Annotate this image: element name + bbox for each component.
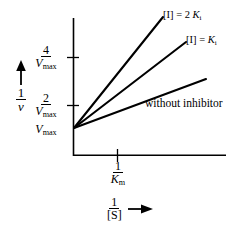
x-tick-label-1-km: 1 Km <box>100 160 136 187</box>
y-tick-label-4-vmax: 4 Vmax <box>24 44 68 71</box>
y-tick-label-2-vmax-subscript: max <box>43 110 57 119</box>
curve-inhibitor-ki <box>74 42 186 128</box>
y-tick-label-2-vmax: 2 Vmax <box>24 92 68 119</box>
curve-label-2ki-coefficient: 2 <box>185 9 190 20</box>
lineweaver-burk-figure: 1 v 4 Vmax 2 Vmax Vmax 1 Km 1 [S] <box>0 0 249 233</box>
x-axis-title: 1 [S] <box>105 196 154 221</box>
y-tick-label-4-vmax-fraction: 4 Vmax <box>33 44 58 71</box>
y-tick-label-2-vmax-fraction: 2 Vmax <box>33 92 58 119</box>
curve-label-ki-bracket: [I] <box>186 34 197 45</box>
x-axis-title-denominator: [S] <box>105 209 124 221</box>
curve-label-2ki-subscript: i <box>200 14 202 22</box>
curve-label-ki-equals: = <box>199 34 205 45</box>
curve-label-2ki-constant: K <box>193 9 200 20</box>
x-tick-label-1-km-subscript: m <box>119 178 125 187</box>
y-tick-label-4-vmax-denominator: Vmax <box>33 57 58 71</box>
x-axis-title-numerator: 1 <box>109 196 119 209</box>
y-tick-label-4-vmax-numerator: 4 <box>41 44 51 57</box>
y-tick-label-4-vmax-subscript: max <box>43 62 57 71</box>
curve-label-inhibitor-ki: [I] = Ki <box>186 34 217 47</box>
x-axis-title-fraction: 1 [S] <box>105 196 124 221</box>
curve-label-no-inhibitor: without inhibitor <box>145 97 223 109</box>
x-tick-label-1-km-fraction: 1 Km <box>109 160 127 187</box>
curve-label-inhibitor-2ki: [I] = 2 Ki <box>163 9 202 22</box>
y-intercept-label-vmax: Vmax <box>24 122 68 137</box>
curve-label-ki-constant: K <box>208 34 215 45</box>
y-tick-label-2-vmax-numerator: 2 <box>41 92 51 105</box>
curve-label-2ki-equals: = <box>176 9 182 20</box>
x-tick-label-1-km-numerator: 1 <box>113 160 123 173</box>
y-intercept-label-vmax-subscript: max <box>43 128 57 137</box>
curve-label-ki-subscript: i <box>215 39 217 47</box>
curve-label-2ki-bracket: [I] <box>163 9 174 20</box>
x-axis-arrow-icon <box>128 203 154 215</box>
y-tick-label-2-vmax-denominator: Vmax <box>33 105 58 119</box>
x-tick-label-1-km-denominator: Km <box>109 173 127 187</box>
y-intercept-label-vmax-symbol: V <box>35 122 42 136</box>
